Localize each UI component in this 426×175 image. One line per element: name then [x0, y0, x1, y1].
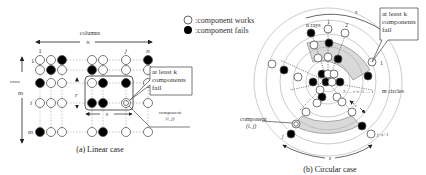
rows-label: rows [10, 79, 20, 84]
m-rows-label: m [18, 89, 23, 97]
legend-works-label: :component works [195, 16, 254, 25]
linear-component-coord: (i, j) [166, 116, 175, 122]
circular-component-label: component [240, 116, 267, 122]
legend: :component works :component fails [184, 16, 254, 35]
right-one-label: 1 [380, 60, 383, 66]
row-label-m: m [28, 128, 33, 136]
n-columns-label: n [87, 39, 90, 45]
linear-case-diagram: columns n 1 j n rows m 1 i m [10, 30, 192, 154]
rays-label: n rays [306, 22, 321, 28]
col-label-n: n [146, 47, 150, 55]
col-label-j: j [124, 47, 127, 55]
circular-callout-line3: fail [382, 26, 391, 34]
r-label: r [75, 91, 78, 99]
circular-component-coord: (i, j) [246, 123, 256, 130]
index-label: 2 … i−r+1 … i [343, 89, 374, 94]
fails-icon [184, 26, 192, 34]
circular-case-diagram: n rays 1 2 s at least k components fail … [240, 8, 418, 174]
row-label-1: 1 [31, 57, 35, 65]
col-label-1: 1 [38, 47, 42, 55]
s-label: s [106, 111, 109, 117]
circular-callout-line1: at least k [382, 10, 407, 18]
linear-callout-line3: fail [152, 84, 161, 92]
j-label: j [281, 133, 284, 139]
row-label-i: i [30, 99, 32, 107]
circular-caption: (b) Circular case [303, 165, 357, 174]
circles-label: m circles [382, 88, 404, 94]
works-icon [184, 16, 192, 24]
diagram-canvas: :component works :component fails column… [0, 0, 426, 175]
linear-component-label: component [159, 110, 182, 115]
linear-caption: (a) Linear case [76, 145, 124, 154]
linear-callout-line1: at least k [152, 68, 177, 76]
ray-label-1: 1 [327, 19, 330, 25]
linear-callout-line2: components [152, 76, 186, 84]
circular-r-label: r [355, 103, 357, 108]
circular-callout-line2: components [382, 18, 416, 26]
j-s1-label: j−s+1 [376, 132, 389, 137]
ray-label-2: 2 [345, 22, 348, 28]
legend-fails-label: :component fails [195, 26, 249, 35]
columns-label: columns [80, 30, 101, 36]
